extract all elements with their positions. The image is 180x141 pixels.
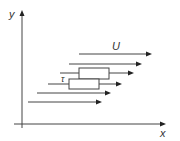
fluid-element-lower <box>69 79 99 89</box>
y-axis-label: y <box>8 8 16 20</box>
shear-flow-diagram: y x U τ <box>0 0 180 141</box>
flow-arrow <box>28 100 102 105</box>
x-axis-arrowhead <box>160 122 166 127</box>
flow-arrow <box>79 52 152 57</box>
flow-arrow <box>69 62 142 67</box>
y-axis-arrowhead <box>20 10 25 16</box>
velocity-label: U <box>112 40 120 52</box>
flow-arrow <box>37 91 111 96</box>
shear-stress-label: τ <box>61 74 65 84</box>
x-axis-label: x <box>159 127 166 139</box>
fluid-element-upper <box>79 68 109 79</box>
